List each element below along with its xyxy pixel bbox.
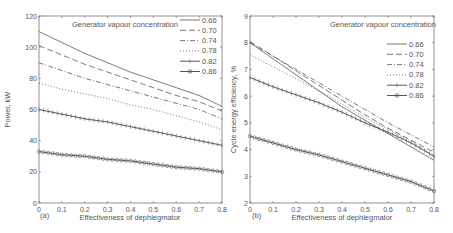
legend-label: 0.74 (409, 60, 424, 69)
x-tick-label: 0.2 (80, 206, 90, 213)
series-lines-b (248, 41, 435, 192)
legend-label: 0.66 (202, 16, 217, 25)
y-axis-label-b: Cycle energy efficiency, % (229, 66, 238, 154)
x-tick-label: 0.6 (171, 206, 181, 213)
x-tick-label: 0.4 (126, 206, 136, 213)
chart-title-b: Generator vapour concentration (330, 20, 436, 29)
chart-title-a: Generator vapour concentration (72, 20, 178, 29)
series-line-0.86 (39, 152, 222, 172)
legend-label: 0.82 (202, 57, 217, 66)
panel-label-a: (a) (40, 211, 50, 220)
legend-label: 0.74 (202, 36, 217, 45)
legend-label: 0.70 (202, 26, 217, 35)
y-tick-label: 9 (244, 13, 248, 20)
legend-label: 0.70 (409, 50, 424, 59)
x-tick-label: 0.8 (217, 206, 227, 213)
panel-label-b: (b) (252, 211, 262, 220)
figure: 00.10.20.30.40.50.60.70.8020406080100120… (0, 0, 453, 233)
x-tick-label: 0.7 (406, 206, 416, 213)
legend-label: 0.86 (409, 91, 424, 100)
y-tick-label: 5 (244, 119, 248, 126)
legend-label: 0.86 (202, 67, 217, 76)
chart-panel-a: 00.10.20.30.40.50.60.70.8020406080100120… (3, 13, 227, 223)
chart-panel-b: 00.10.20.30.40.50.60.70.823456789 Genera… (229, 13, 439, 223)
series-line-0.70 (250, 41, 434, 152)
x-tick-label: 0.3 (314, 206, 324, 213)
series-line-0.70 (39, 46, 222, 111)
y-tick-label: 20 (29, 168, 37, 175)
series-lines-a (37, 32, 223, 174)
x-tick-label: 0.8 (429, 206, 439, 213)
plot-area-a (39, 16, 222, 203)
y-tick-label: 4 (244, 146, 248, 153)
y-tick-label: 100 (25, 44, 37, 51)
series-line-0.78 (39, 83, 222, 130)
y-tick-label: 2 (244, 200, 248, 207)
y-tick-label: 40 (29, 137, 37, 144)
legend-label: 0.78 (409, 70, 424, 79)
legend-label: 0.66 (409, 40, 424, 49)
y-tick-label: 8 (244, 39, 248, 46)
x-tick-label: 0.5 (360, 206, 370, 213)
y-tick-label: 6 (244, 93, 248, 100)
legend-label: 0.78 (202, 46, 217, 55)
x-tick-label: 0.5 (149, 206, 159, 213)
x-axis-label-b: Effectiveness of dephlegmator (292, 213, 393, 222)
y-axis-label-a: Power, kW (3, 91, 12, 128)
x-tick-label: 0.2 (291, 206, 301, 213)
x-axis-label-a: Effectiveness of dephlegmator (80, 213, 181, 222)
legend-label: 0.82 (409, 81, 424, 90)
y-tick-label: 60 (29, 106, 37, 113)
legend-b: 0.660.700.740.780.820.86 (387, 40, 424, 101)
x-tick-label: 0.7 (194, 206, 204, 213)
x-tick-label: 0.6 (383, 206, 393, 213)
y-tick-label: 120 (25, 13, 37, 20)
y-tick-label: 80 (29, 75, 37, 82)
y-tick-label: 0 (33, 200, 37, 207)
series-line-0.66 (39, 32, 222, 107)
x-tick-label: 0.3 (103, 206, 113, 213)
series-line-0.74 (250, 43, 434, 147)
x-tick-label: 0.1 (268, 206, 278, 213)
x-tick-label: 0.1 (57, 206, 67, 213)
y-tick-label: 7 (244, 66, 248, 73)
y-tick-label: 3 (244, 173, 248, 180)
legend-a: 0.660.700.740.780.820.86 (180, 16, 217, 77)
x-tick-label: 0.4 (337, 206, 347, 213)
